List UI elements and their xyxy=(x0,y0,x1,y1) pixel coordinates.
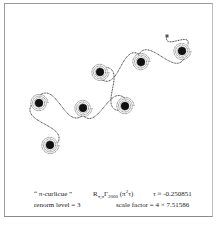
renorm-level: renorm level = 3 xyxy=(34,201,81,209)
scale-factor: scale factor = 4 × 7.51586 xyxy=(116,201,189,209)
operator-expression: Rπ,πΓ2000 (π2τ) xyxy=(93,190,133,198)
spiral-knot xyxy=(117,97,134,113)
spiral-knot xyxy=(174,43,191,59)
spiral-knot xyxy=(75,100,92,116)
spiral-knot xyxy=(133,53,150,69)
spiral-knot xyxy=(31,94,48,110)
curlicue-curve xyxy=(30,36,188,143)
spiral-knot xyxy=(92,64,109,80)
spiral-knot xyxy=(42,137,59,153)
curve-start-marker xyxy=(166,35,169,38)
curlicue-title: “ π-curlicue ” xyxy=(34,190,72,198)
tau-value: τ ≈ -0.250851 xyxy=(153,190,192,198)
